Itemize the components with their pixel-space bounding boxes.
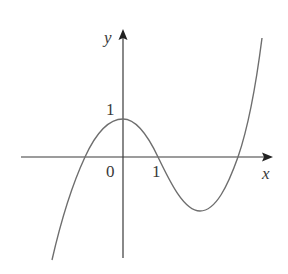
function-curve (52, 38, 262, 260)
y-tick-label-1: 1 (106, 101, 115, 118)
origin-label: 0 (106, 163, 115, 180)
y-axis-label: y (104, 29, 112, 46)
x-tick-label-1: 1 (152, 163, 161, 180)
function-graph: y x 0 1 1 (0, 0, 288, 274)
x-axis-label: x (262, 165, 270, 182)
graph-canvas (0, 0, 288, 274)
